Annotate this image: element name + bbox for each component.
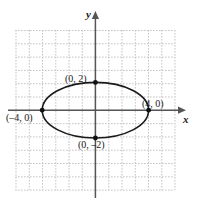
point-marker-0-2: [93, 80, 98, 85]
y-axis-label: y: [86, 9, 91, 20]
y-axis: [92, 11, 99, 198]
x-axis-label: x: [183, 114, 189, 125]
point-marker-neg4-0: [40, 108, 45, 113]
point-label-0-neg2: (0, –2): [78, 140, 105, 150]
ellipse-figure: (0, 2) (4, 0) (–4, 0) (0, –2) x y: [0, 0, 198, 202]
point-label-neg4-0: (–4, 0): [6, 113, 33, 123]
point-label-0-2: (0, 2): [65, 74, 87, 84]
point-label-4-0: (4, 0): [142, 99, 164, 109]
plot-canvas: [0, 0, 198, 202]
